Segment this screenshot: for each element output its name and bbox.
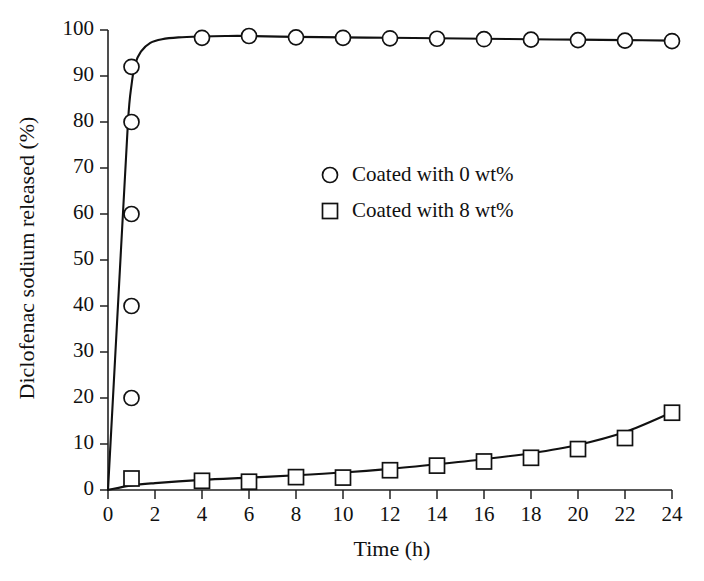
x-tick-label: 24 bbox=[662, 502, 684, 526]
data-point-marker bbox=[477, 32, 492, 47]
data-point-marker bbox=[289, 30, 304, 45]
data-point-marker bbox=[242, 28, 257, 43]
data-point-marker bbox=[336, 30, 351, 45]
y-tick-label: 80 bbox=[73, 108, 94, 132]
data-point-marker bbox=[124, 59, 139, 74]
data-point-marker bbox=[289, 470, 304, 485]
data-point-marker bbox=[524, 32, 539, 47]
legend-label-coated-8wt: Coated with 8 wt% bbox=[352, 198, 514, 222]
x-tick-label: 14 bbox=[427, 502, 449, 526]
y-tick-label: 50 bbox=[73, 246, 94, 270]
data-point-marker bbox=[618, 33, 633, 48]
data-point-marker bbox=[124, 471, 139, 486]
x-axis-title: Time (h) bbox=[354, 536, 431, 561]
y-tick-label: 0 bbox=[84, 476, 95, 500]
y-tick-label: 60 bbox=[73, 200, 94, 224]
x-tick-label: 8 bbox=[291, 502, 302, 526]
data-point-marker bbox=[430, 31, 445, 46]
data-point-marker bbox=[524, 450, 539, 465]
y-tick-label: 30 bbox=[73, 338, 94, 362]
figure-container: 0102030405060708090100 02468101214161820… bbox=[0, 0, 704, 581]
data-point-marker bbox=[665, 405, 680, 420]
chart-legend: Coated with 0 wt% Coated with 8 wt% bbox=[323, 162, 514, 222]
data-point-marker bbox=[124, 115, 139, 130]
y-axis-title: Diclofenac sodium released (%) bbox=[14, 117, 39, 400]
data-point-marker bbox=[124, 299, 139, 314]
x-tick-label: 20 bbox=[568, 502, 589, 526]
y-tick-label: 100 bbox=[63, 16, 95, 40]
x-tick-label: 22 bbox=[615, 502, 636, 526]
y-tick-label: 70 bbox=[73, 154, 94, 178]
x-tick-label: 10 bbox=[333, 502, 354, 526]
x-tick-label: 2 bbox=[150, 502, 161, 526]
x-tick-label: 6 bbox=[244, 502, 255, 526]
y-tick-label: 20 bbox=[73, 384, 94, 408]
data-point-marker bbox=[571, 442, 586, 457]
chart-svg: 0102030405060708090100 02468101214161820… bbox=[0, 0, 704, 581]
x-tick-label: 12 bbox=[380, 502, 401, 526]
series-curve-coated-0wt bbox=[108, 36, 672, 490]
data-point-marker bbox=[124, 207, 139, 222]
data-point-marker bbox=[195, 30, 210, 45]
data-point-marker bbox=[124, 391, 139, 406]
x-tick-label: 18 bbox=[521, 502, 542, 526]
data-point-marker bbox=[383, 463, 398, 478]
y-tick-label: 40 bbox=[73, 292, 94, 316]
data-point-marker bbox=[383, 31, 398, 46]
data-point-marker bbox=[336, 470, 351, 485]
legend-square-marker-icon bbox=[323, 204, 338, 219]
data-point-marker bbox=[665, 34, 680, 49]
x-axis-ticks: 024681012141618202224 bbox=[103, 490, 683, 526]
data-point-marker bbox=[618, 431, 633, 446]
data-point-marker bbox=[430, 458, 445, 473]
legend-label-coated-0wt: Coated with 0 wt% bbox=[352, 162, 514, 186]
legend-circle-marker-icon bbox=[323, 168, 338, 183]
data-point-marker bbox=[195, 473, 210, 488]
y-tick-label: 90 bbox=[73, 62, 94, 86]
data-point-marker bbox=[477, 454, 492, 469]
x-tick-label: 16 bbox=[474, 502, 495, 526]
y-axis-ticks: 0102030405060708090100 bbox=[63, 16, 109, 500]
data-point-marker bbox=[242, 474, 257, 489]
data-point-marker bbox=[571, 33, 586, 48]
series-markers-coated-8wt bbox=[124, 405, 680, 489]
x-tick-label: 4 bbox=[197, 502, 208, 526]
y-tick-label: 10 bbox=[73, 430, 94, 454]
x-tick-label: 0 bbox=[103, 502, 114, 526]
